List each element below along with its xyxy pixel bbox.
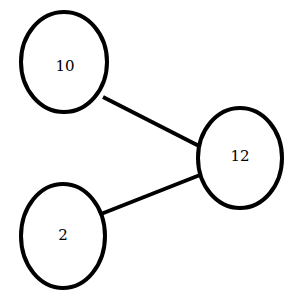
graph-node-12[interactable]: 12 xyxy=(198,108,282,208)
graph-canvas: 10122 xyxy=(0,0,296,306)
graph-node-2[interactable]: 2 xyxy=(21,184,105,288)
graph-svg: 10122 xyxy=(0,0,296,306)
graph-node-10[interactable]: 10 xyxy=(21,12,107,112)
node-label-2: 2 xyxy=(58,226,68,244)
node-label-12: 12 xyxy=(230,147,249,165)
node-label-10: 10 xyxy=(55,57,74,75)
